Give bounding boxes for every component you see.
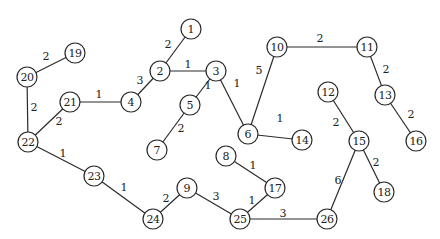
graph-canvas: 2221321112512222261123113 12345678910111… — [0, 0, 440, 239]
node-26: 26 — [317, 209, 337, 229]
node-label: 12 — [322, 86, 335, 99]
edge-weight-label: 1 — [250, 159, 257, 172]
node-label: 9 — [184, 182, 191, 195]
node-label: 25 — [234, 213, 247, 226]
edges-layer — [27, 29, 416, 219]
edge-weights-layer: 2221321112512222261123113 — [31, 32, 415, 220]
edge-weight-label: 1 — [185, 58, 192, 71]
node-label: 24 — [147, 213, 160, 226]
node-label: 4 — [128, 96, 135, 109]
edge-weight-label: 2 — [383, 63, 390, 76]
edge-weight-label: 1 — [249, 194, 256, 207]
edge-weight-label: 2 — [163, 192, 170, 205]
node-label: 16 — [410, 135, 423, 148]
node-label: 26 — [321, 213, 334, 226]
node-19: 19 — [65, 43, 85, 63]
edge-weight-label: 5 — [256, 64, 263, 77]
graph-diagram: 2221321112512222261123113 12345678910111… — [0, 0, 440, 239]
node-9: 9 — [177, 178, 197, 198]
edge-weight-label: 2 — [317, 32, 324, 45]
edge-weight-label: 6 — [335, 174, 342, 187]
edge-weight-label: 3 — [137, 74, 144, 87]
node-11: 11 — [357, 37, 377, 57]
edge-weight-label: 2 — [43, 50, 50, 63]
edge-15-26 — [327, 141, 359, 219]
node-label: 5 — [187, 99, 194, 112]
node-17: 17 — [265, 178, 285, 198]
edge-weight-label: 3 — [213, 190, 220, 203]
edge-weight-label: 2 — [178, 122, 185, 135]
node-1: 1 — [181, 19, 201, 39]
node-label: 11 — [361, 41, 374, 54]
edge-weight-label: 2 — [373, 156, 380, 169]
edge-weight-label: 3 — [280, 207, 287, 220]
node-label: 22 — [22, 136, 35, 149]
edge-weight-label: 1 — [277, 112, 284, 125]
node-label: 10 — [271, 41, 284, 54]
node-15: 15 — [349, 131, 369, 151]
edge-weight-label: 1 — [121, 181, 128, 194]
node-23: 23 — [84, 166, 104, 186]
edge-weight-label: 2 — [408, 108, 415, 121]
node-8: 8 — [216, 146, 236, 166]
edge-weight-label: 2 — [165, 38, 172, 51]
node-18: 18 — [374, 182, 394, 202]
node-label: 14 — [296, 134, 309, 147]
node-label: 21 — [64, 96, 77, 109]
node-10: 10 — [267, 37, 287, 57]
node-6: 6 — [238, 124, 258, 144]
edge-weight-label: 1 — [96, 88, 103, 101]
node-label: 1 — [188, 23, 195, 36]
edge-weight-label: 1 — [234, 77, 241, 90]
node-7: 7 — [147, 140, 167, 160]
edge-weight-label: 2 — [31, 101, 38, 114]
node-13: 13 — [375, 85, 395, 105]
edge-weight-label: 1 — [205, 79, 212, 92]
node-label: 23 — [88, 170, 101, 183]
edge-weight-label: 2 — [56, 115, 63, 128]
node-4: 4 — [121, 92, 141, 112]
node-21: 21 — [60, 92, 80, 112]
node-label: 18 — [378, 186, 391, 199]
node-3: 3 — [206, 61, 226, 81]
node-label: 6 — [245, 128, 252, 141]
node-label: 20 — [21, 71, 34, 84]
node-label: 15 — [353, 135, 366, 148]
node-14: 14 — [292, 130, 312, 150]
node-label: 7 — [154, 144, 161, 157]
edge-weight-label: 2 — [333, 116, 340, 129]
node-label: 17 — [269, 182, 282, 195]
node-24: 24 — [143, 209, 163, 229]
node-16: 16 — [406, 131, 426, 151]
edge-6-10 — [248, 47, 277, 134]
node-label: 19 — [69, 47, 82, 60]
node-5: 5 — [180, 95, 200, 115]
node-25: 25 — [230, 209, 250, 229]
node-22: 22 — [18, 132, 38, 152]
node-2: 2 — [150, 61, 170, 81]
node-label: 13 — [379, 89, 392, 102]
edge-weight-label: 1 — [60, 147, 67, 160]
nodes-layer: 1234567891011121314151617181920212223242… — [17, 19, 426, 229]
node-label: 3 — [213, 65, 220, 78]
node-label: 2 — [157, 65, 164, 78]
node-20: 20 — [17, 67, 37, 87]
node-label: 8 — [223, 150, 230, 163]
node-12: 12 — [318, 82, 338, 102]
